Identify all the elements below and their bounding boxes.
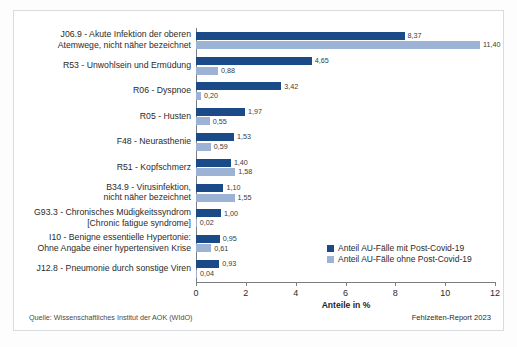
chart-bar [196, 117, 210, 125]
chart-category-row: R05 - Husten1,970,55 [196, 104, 495, 129]
x-axis-tick-label: 4 [293, 288, 298, 298]
chart-bar-value-label: 0,59 [214, 143, 228, 151]
chart-bar-value-label: 1,00 [224, 210, 238, 218]
chart-bar [196, 235, 220, 243]
chart-bar [196, 108, 245, 116]
x-axis-tick-label: 2 [243, 288, 248, 298]
x-axis-tick-label: 10 [440, 288, 450, 298]
chart-bar [196, 194, 235, 202]
chart-bar-value-label: 1,53 [237, 133, 251, 141]
chart-bar-value-label: 0,20 [204, 92, 218, 100]
chart-bar-value-label: 0,55 [213, 118, 227, 126]
chart-bar [196, 219, 197, 227]
x-axis-tick-label: 8 [393, 288, 398, 298]
legend-label-light: Anteil AU-Fälle ohne Post-Covid-19 [338, 254, 472, 265]
legend-swatch-icon-dark [327, 245, 334, 252]
x-axis-title: Anteile in % [196, 300, 496, 310]
chart-category-row: R51 - Kopfschmerz1,401,58 [196, 155, 495, 180]
chart-bar [196, 159, 231, 167]
chart-bar-value-label: 8,37 [408, 32, 422, 40]
x-axis-tick [246, 282, 247, 286]
legend-label-dark: Anteil AU-Fälle mit Post-Covid-19 [338, 243, 464, 254]
chart-bar [196, 244, 211, 252]
x-axis-tick-label: 6 [343, 288, 348, 298]
chart-category-label: R51 - Kopfschmerz [15, 162, 191, 172]
x-axis-tick [495, 282, 496, 286]
chart-bar [196, 57, 312, 65]
chart-bar-value-label: 0,95 [223, 235, 237, 243]
x-axis-tick-label: 0 [193, 288, 198, 298]
chart-legend: Anteil AU-Fälle mit Post-Covid-19 Anteil… [327, 243, 472, 265]
chart-category-row: R53 - Unwohlsein und Ermüdung4,650,88 [196, 53, 495, 78]
chart-category-label: R06 - Dyspnoe [15, 85, 191, 95]
chart-bar [196, 92, 201, 100]
chart-bar-value-label: 0,02 [200, 219, 214, 227]
chart-category-label: G93.3 - Chronisches Müdigkeitssyndrom [C… [15, 207, 191, 228]
chart-bar-value-label: 1,55 [238, 194, 252, 202]
chart-category-label: J06.9 - Akute Infektion der oberen Atemw… [15, 29, 191, 50]
report-note: Fehlzeiten-Report 2023 [412, 313, 491, 322]
chart-bar [196, 82, 281, 90]
chart-bar [196, 168, 235, 176]
chart-category-label: B34.9 - Virusinfektion, nicht näher beze… [15, 182, 191, 203]
chart-category-row: G93.3 - Chronisches Müdigkeitssyndrom [C… [196, 206, 495, 231]
chart-bar-value-label: 0,04 [200, 270, 214, 278]
chart-bar-value-label: 11,40 [483, 41, 500, 49]
chart-bar-value-label: 1,10 [226, 184, 240, 192]
x-axis-tick [296, 282, 297, 286]
chart-bar [196, 260, 219, 268]
chart-bar [196, 270, 197, 278]
source-note: Quelle: Wissenschaftliches Institut der … [29, 313, 192, 322]
chart-bar [196, 32, 405, 40]
x-axis-tick [395, 282, 396, 286]
x-axis-tick [346, 282, 347, 286]
chart-bar [196, 209, 221, 217]
legend-item-mit-post-covid: Anteil AU-Fälle mit Post-Covid-19 [327, 243, 472, 254]
chart-bar [196, 133, 234, 141]
x-axis-tick [196, 282, 197, 286]
x-axis-tick-label: 12 [490, 288, 500, 298]
chart-bar-value-label: 1,40 [234, 159, 248, 167]
chart-bar-value-label: 4,65 [315, 57, 329, 65]
chart-category-row: J06.9 - Akute Infektion der oberen Atemw… [196, 28, 495, 53]
legend-item-ohne-post-covid: Anteil AU-Fälle ohne Post-Covid-19 [327, 254, 472, 265]
x-axis-tick [445, 282, 446, 286]
chart-category-label: J12.8 - Pneumonie durch sonstige Viren [15, 263, 191, 273]
chart-bar-value-label: 0,93 [222, 260, 236, 268]
chart-bar [196, 41, 480, 49]
chart-bar-value-label: 1,97 [248, 108, 262, 116]
legend-swatch-icon-light [327, 256, 334, 263]
chart-category-label: I10 - Benigne essentielle Hypertonie: Oh… [15, 232, 191, 253]
chart-bar-value-label: 1,58 [238, 168, 252, 176]
chart-bar-value-label: 0,61 [214, 245, 228, 253]
chart-category-label: R05 - Husten [15, 111, 191, 121]
chart-bar [196, 67, 218, 75]
chart-category-label: R53 - Unwohlsein und Ermüdung [15, 60, 191, 70]
chart-bar-value-label: 0,88 [221, 67, 235, 75]
chart-bar [196, 184, 223, 192]
chart-bar-value-label: 3,42 [284, 83, 298, 91]
chart-category-row: F48 - Neurasthenie1,530,59 [196, 130, 495, 155]
chart-figure-frame: J06.9 - Akute Infektion der oberen Atemw… [13, 10, 504, 331]
chart-category-label: F48 - Neurasthenie [15, 136, 191, 146]
chart-bar [196, 143, 211, 151]
chart-category-row: B34.9 - Virusinfektion, nicht näher beze… [196, 180, 495, 205]
chart-category-row: R06 - Dyspnoe3,420,20 [196, 79, 495, 104]
